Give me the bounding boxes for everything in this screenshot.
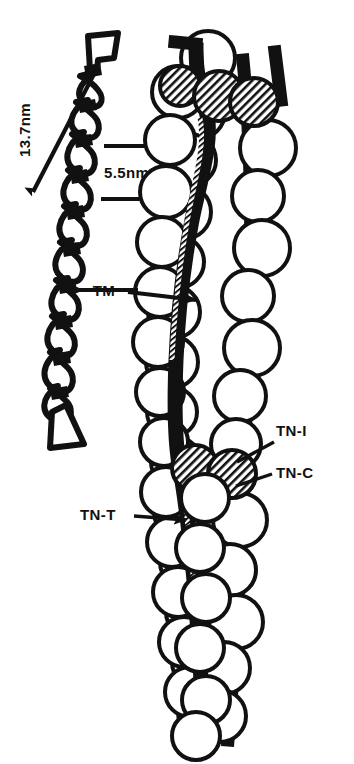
- actin-monomer: [145, 115, 195, 165]
- actin-monomer: [181, 474, 229, 522]
- thin-filament-diagram: 13.7nm 5.5nm: [0, 0, 354, 764]
- actin-monomer: [232, 170, 284, 222]
- actin-monomer: [172, 712, 220, 760]
- tn-t-label: TN-T: [80, 506, 116, 523]
- actin-monomer: [224, 320, 280, 376]
- actin-monomer: [182, 574, 230, 622]
- figure-canvas: 13.7nm 5.5nm: [0, 0, 354, 764]
- actin-monomer: [240, 120, 296, 176]
- actin-monomer: [176, 524, 224, 572]
- tn-c-label: TN-C: [276, 464, 313, 481]
- troponin-subunit: [230, 78, 278, 126]
- tropomyosin-top-stub: [175, 42, 196, 44]
- tn-i-label: TN-I: [276, 422, 307, 439]
- actin-monomer: [176, 624, 224, 672]
- actin-monomer: [214, 370, 266, 422]
- actin-monomer: [140, 166, 192, 218]
- actin-monomer: [222, 270, 274, 322]
- period-label: 13.7nm: [16, 103, 33, 157]
- actin-monomer: [234, 220, 290, 276]
- tm-label: TM: [93, 282, 115, 299]
